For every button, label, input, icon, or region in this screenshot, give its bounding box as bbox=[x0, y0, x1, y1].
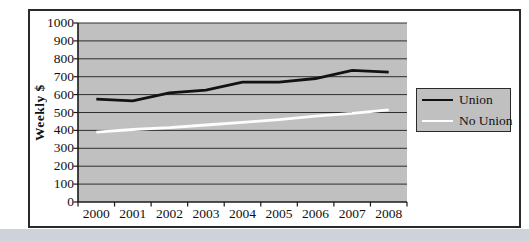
x-tick-label: 2007 bbox=[339, 206, 366, 222]
legend-label: No Union bbox=[459, 114, 513, 128]
page-background-strip bbox=[0, 229, 529, 241]
series-line-union bbox=[96, 70, 388, 101]
y-tick-label: 400 bbox=[54, 123, 74, 137]
legend: UnionNo Union bbox=[416, 88, 511, 132]
y-tick-label: 900 bbox=[54, 34, 74, 48]
legend-swatch-no-union bbox=[422, 120, 453, 122]
plot-svg bbox=[78, 23, 407, 202]
y-tick-label: 1000 bbox=[47, 16, 74, 30]
y-tick-label: 800 bbox=[54, 52, 74, 66]
legend-label: Union bbox=[459, 93, 493, 107]
legend-item: No Union bbox=[417, 110, 510, 131]
x-tick-label: 2006 bbox=[302, 206, 329, 222]
legend-item: Union bbox=[417, 89, 510, 110]
plot-area bbox=[78, 23, 407, 202]
x-tick-label: 2000 bbox=[83, 206, 110, 222]
y-tick-label: 500 bbox=[54, 106, 74, 120]
x-tick-label: 2004 bbox=[229, 206, 256, 222]
series-line-no-union bbox=[96, 110, 388, 132]
y-tick-label: 700 bbox=[54, 70, 74, 84]
y-tick-label: 300 bbox=[54, 141, 74, 155]
x-tick-label: 2005 bbox=[266, 206, 293, 222]
y-tick-label: 200 bbox=[54, 159, 74, 173]
x-tick-label: 2008 bbox=[375, 206, 402, 222]
y-tick-label: 0 bbox=[67, 195, 74, 209]
x-tick-label: 2001 bbox=[119, 206, 146, 222]
y-tick-label: 600 bbox=[54, 88, 74, 102]
x-tick-label: 2003 bbox=[192, 206, 219, 222]
chart-frame: Weekly $ 0100200300400500600700800900100… bbox=[28, 9, 521, 228]
x-axis-tick-labels: 200020012002200320042005200620072008 bbox=[78, 206, 407, 222]
y-tick-label: 100 bbox=[54, 177, 74, 191]
y-axis-tick-labels: 01002003004005006007008009001000 bbox=[30, 23, 74, 202]
legend-swatch-union bbox=[422, 99, 453, 101]
x-tick-label: 2002 bbox=[156, 206, 183, 222]
